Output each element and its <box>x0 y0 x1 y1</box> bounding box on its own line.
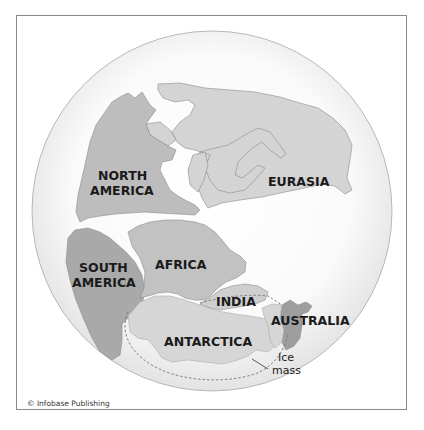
label-north-america-1: NORTH <box>98 168 147 183</box>
label-antarctica: ANTARCTICA <box>164 334 253 349</box>
label-south-america-1: SOUTH <box>79 260 128 275</box>
pangaea-map: NORTH AMERICA EURASIA SOUTH AMERICA AFRI… <box>0 0 424 430</box>
label-eurasia: EURASIA <box>268 174 330 189</box>
label-south-america-2: AMERICA <box>72 275 136 290</box>
label-india: INDIA <box>216 294 256 309</box>
label-africa: AFRICA <box>155 257 207 272</box>
label-mass: mass <box>272 364 301 377</box>
label-ice: Ice <box>278 351 294 364</box>
label-australia: AUSTRALIA <box>271 313 350 328</box>
label-north-america-2: AMERICA <box>90 183 154 198</box>
copyright-credit: © Infobase Publishing <box>27 399 110 408</box>
